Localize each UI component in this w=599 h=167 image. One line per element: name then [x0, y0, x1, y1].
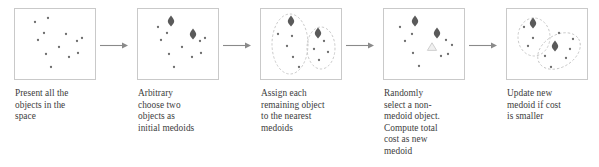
step-caption-2: Arbitrary choose two objects as initial … — [138, 88, 238, 134]
arrow-right-icon — [346, 41, 374, 50]
data-point — [157, 26, 159, 28]
data-point — [572, 38, 574, 40]
data-point — [65, 33, 67, 35]
data-point — [565, 57, 567, 59]
flow-step-3: Assign each remaining object to the near… — [260, 0, 364, 167]
data-point — [298, 66, 300, 68]
flow-step-2: Arbitrary choose two objects as initial … — [137, 0, 241, 167]
arrow-right-icon — [469, 41, 497, 50]
data-point — [550, 66, 552, 68]
data-point — [81, 37, 83, 39]
medoid-marker — [434, 28, 440, 39]
data-point — [166, 32, 168, 34]
scatter-panel-random-nonmedoid — [383, 8, 465, 80]
data-point — [200, 52, 202, 54]
scatter-plot-1 — [15, 9, 97, 81]
scatter-plot-2 — [138, 9, 220, 81]
flow-step-5: Update new medoid if cost is smaller — [506, 0, 599, 167]
data-point — [327, 51, 329, 53]
data-point — [292, 56, 294, 58]
medoid-marker — [315, 28, 321, 39]
data-point — [286, 45, 288, 47]
arrow-step1-to-step2 — [100, 41, 128, 50]
data-point — [447, 53, 449, 55]
arrow-right-icon — [223, 41, 251, 50]
arrow-step3-to-step4 — [346, 41, 374, 50]
arrow-right-icon — [100, 41, 128, 50]
candidate-medoid-marker — [427, 43, 436, 51]
scatter-panel-initial-medoids — [137, 8, 219, 80]
data-point — [45, 53, 47, 55]
scatter-panel-update-medoid — [506, 8, 588, 80]
data-point — [204, 37, 206, 39]
data-point — [412, 52, 414, 54]
scatter-plot-3 — [261, 9, 343, 81]
data-point — [50, 66, 52, 68]
kmedoids-flow-diagram: Present all the objects in the space Arb… — [0, 0, 599, 167]
data-point — [168, 53, 170, 55]
data-point — [404, 40, 406, 42]
medoid-marker — [412, 16, 418, 27]
scatter-panel-assign-clusters — [260, 8, 342, 80]
medoid-marker — [288, 16, 294, 27]
data-point — [291, 35, 293, 37]
data-point — [544, 55, 546, 57]
step-caption-3: Assign each remaining object to the near… — [261, 88, 361, 134]
medoid-marker — [190, 29, 196, 40]
scatter-plot-5 — [507, 9, 589, 81]
data-point — [76, 40, 78, 42]
step-caption-4: Randomly select a non- medoid object. Co… — [384, 88, 484, 158]
data-point — [527, 45, 529, 47]
data-point — [191, 56, 193, 58]
data-point — [318, 59, 320, 61]
data-point — [277, 33, 279, 35]
flow-step-4: Randomly select a non- medoid object. Co… — [383, 0, 487, 167]
step-caption-5: Update new medoid if cost is smaller — [507, 88, 599, 123]
data-point — [173, 66, 175, 68]
scatter-panel-present-objects — [14, 8, 96, 80]
data-point — [445, 39, 447, 41]
data-point — [160, 39, 162, 41]
data-point — [34, 21, 36, 23]
data-point — [199, 40, 201, 42]
arrow-step4-to-step5 — [469, 41, 497, 50]
data-point — [313, 48, 315, 50]
data-point — [58, 46, 60, 48]
data-point — [532, 37, 534, 39]
data-point — [323, 40, 325, 42]
medoid-marker — [530, 18, 536, 29]
data-point — [77, 52, 79, 54]
data-point — [68, 56, 70, 58]
data-point — [411, 33, 413, 35]
data-point — [440, 55, 442, 57]
data-point — [569, 48, 571, 50]
data-point — [523, 26, 525, 28]
scatter-plot-4 — [384, 9, 466, 81]
data-point — [399, 26, 401, 28]
data-point — [37, 39, 39, 41]
flow-step-1: Present all the objects in the space — [14, 0, 118, 167]
medoid-marker — [552, 41, 558, 52]
data-point — [181, 46, 183, 48]
arrow-step2-to-step3 — [223, 41, 251, 50]
data-point — [43, 32, 45, 34]
medoid-marker — [168, 16, 174, 27]
step-caption-1: Present all the objects in the space — [15, 88, 115, 123]
data-point — [451, 44, 453, 46]
data-point — [558, 32, 560, 34]
data-point — [418, 65, 420, 67]
data-point — [47, 17, 49, 19]
